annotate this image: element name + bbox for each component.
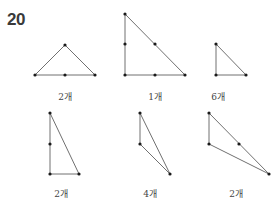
point	[77, 172, 80, 175]
triangle-figure	[33, 43, 96, 76]
segment	[65, 45, 95, 75]
point	[153, 42, 156, 45]
point	[153, 73, 156, 76]
point	[168, 172, 171, 175]
triangle-figure	[48, 111, 80, 175]
segment	[216, 44, 246, 75]
segment	[35, 45, 65, 75]
point	[138, 111, 141, 114]
point	[48, 142, 51, 145]
point	[123, 12, 126, 15]
point	[33, 73, 36, 76]
point	[244, 73, 247, 76]
point	[214, 42, 217, 45]
triangle-figure	[138, 111, 171, 175]
segment	[209, 144, 269, 174]
figure-label: 4개	[143, 187, 157, 200]
point	[207, 142, 210, 145]
triangle-figure	[123, 12, 186, 76]
figure-label: 2개	[229, 187, 243, 200]
point	[138, 142, 141, 145]
point	[183, 73, 186, 76]
point	[63, 73, 66, 76]
point	[63, 43, 66, 46]
point	[214, 73, 217, 76]
point	[123, 73, 126, 76]
point	[267, 172, 270, 175]
triangle-figures	[0, 0, 280, 210]
figure-label: 2개	[54, 187, 68, 200]
point	[48, 172, 51, 175]
segment	[140, 144, 170, 174]
point	[123, 42, 126, 45]
figure-label: 2개	[58, 90, 72, 103]
point	[93, 73, 96, 76]
figure-label: 6개	[211, 90, 225, 103]
figure-label: 1개	[148, 90, 162, 103]
point	[207, 111, 210, 114]
segment	[140, 113, 170, 174]
point	[237, 142, 240, 145]
triangle-figure	[214, 42, 247, 76]
segment	[50, 113, 79, 174]
triangle-figure	[207, 111, 270, 175]
point	[48, 111, 51, 114]
